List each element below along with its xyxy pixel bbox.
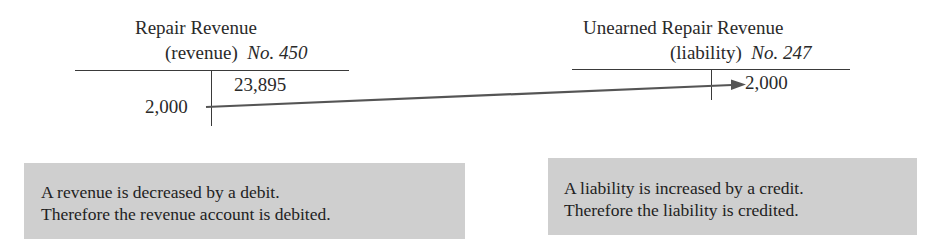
left-note-line-2: Therefore the revenue account is debited… bbox=[41, 203, 465, 225]
right-note-line-2: Therefore the liability is credited. bbox=[564, 199, 917, 221]
right-note-line-1: A liability is increased by a credit. bbox=[564, 177, 917, 199]
left-note-line-1: A revenue is decreased by a debit. bbox=[41, 181, 465, 203]
right-note: A liability is increased by a credit. Th… bbox=[548, 158, 917, 235]
left-note: A revenue is decreased by a debit. There… bbox=[24, 163, 465, 239]
